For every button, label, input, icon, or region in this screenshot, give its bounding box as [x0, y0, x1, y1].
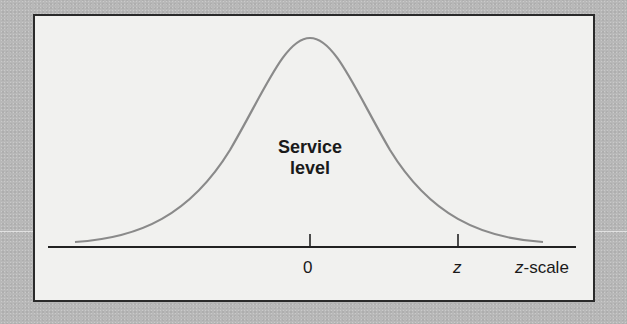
tick-label-zero: 0	[303, 258, 312, 278]
service-label-line2: level	[250, 158, 370, 179]
axis-label-var: z	[515, 258, 524, 277]
tick-label-z: z	[453, 258, 462, 278]
axis-label-suffix: -scale	[524, 258, 569, 277]
service-level-label: Service level	[250, 137, 370, 179]
axis-label-z-scale: z-scale	[515, 258, 569, 278]
service-label-line1: Service	[250, 137, 370, 158]
